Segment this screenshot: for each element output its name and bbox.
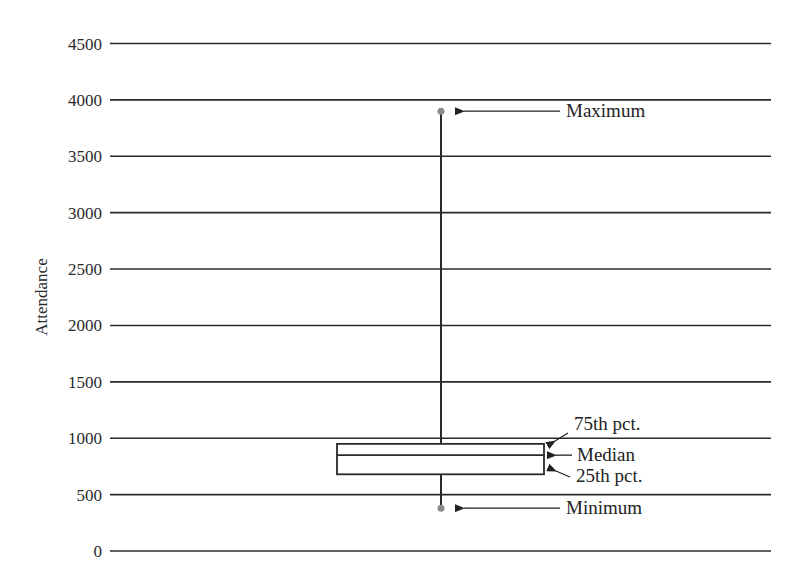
y-tick-label: 2500: [68, 260, 102, 279]
median-label: Median: [577, 444, 636, 465]
y-tick-label: 3000: [68, 204, 102, 223]
maximum-point: [438, 108, 445, 115]
y-axis-tick-labels: 050010001500200025003000350040004500: [68, 35, 102, 562]
y-axis-label: Attendance: [32, 258, 51, 335]
y-tick-label: 4000: [68, 91, 102, 110]
minimum-point: [438, 505, 445, 512]
y-tick-label: 1500: [68, 373, 102, 392]
q3-arrow: [555, 433, 568, 441]
q3-label: 75th pct.: [574, 413, 641, 434]
y-tick-label: 3500: [68, 147, 102, 166]
y-tick-label: 2000: [68, 316, 102, 335]
minimum-label: Minimum: [566, 497, 642, 518]
box-plot-chart: 050010001500200025003000350040004500 Att…: [0, 0, 805, 585]
y-tick-label: 4500: [68, 35, 102, 54]
q1-arrow: [556, 471, 570, 477]
y-tick-label: 0: [94, 542, 103, 561]
y-tick-label: 500: [77, 486, 103, 505]
q1-label: 25th pct.: [576, 465, 643, 486]
maximum-label: Maximum: [566, 100, 645, 121]
iqr-box: [337, 444, 544, 474]
y-tick-label: 1000: [68, 429, 102, 448]
box-plot: [337, 108, 544, 512]
